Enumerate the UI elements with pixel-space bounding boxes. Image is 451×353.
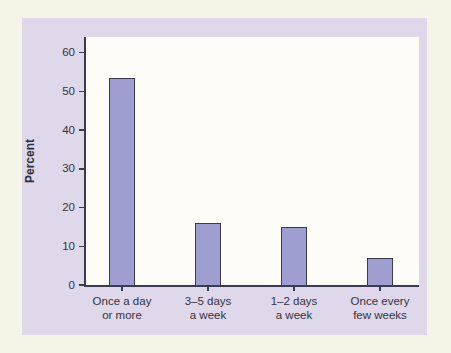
x-category-label-1-line-1: a week xyxy=(160,308,256,322)
x-category-label-1-line-0: 3–5 days xyxy=(160,294,256,308)
x-category-label-3-line-0: Once every xyxy=(332,294,428,308)
y-tick-label-50: 50 xyxy=(45,86,75,98)
y-tick-label-30: 30 xyxy=(45,163,75,175)
bar-0 xyxy=(109,78,135,285)
bar-1 xyxy=(195,223,221,285)
x-category-label-0-line-0: Once a day xyxy=(74,294,170,308)
x-category-label-0: Once a dayor more xyxy=(74,294,170,323)
y-tick-label-20: 20 xyxy=(45,202,75,214)
x-category-label-2-line-1: a week xyxy=(246,308,342,322)
y-tick-mark-0 xyxy=(79,284,84,286)
x-category-label-0-line-1: or more xyxy=(74,308,170,322)
y-tick-mark-20 xyxy=(79,207,84,209)
x-tick-mark-0 xyxy=(121,287,123,291)
x-category-label-3: Once everyfew weeks xyxy=(332,294,428,323)
x-category-label-1: 3–5 daysa week xyxy=(160,294,256,323)
y-tick-label-10: 10 xyxy=(45,241,75,253)
x-tick-mark-3 xyxy=(379,287,381,291)
x-category-label-2: 1–2 daysa week xyxy=(246,294,342,323)
y-tick-mark-30 xyxy=(79,168,84,170)
y-tick-mark-10 xyxy=(79,246,84,248)
y-tick-label-0: 0 xyxy=(45,280,75,292)
x-category-label-3-line-1: few weeks xyxy=(332,308,428,322)
chart-panel: Percent 0102030405060Once a dayor more3–… xyxy=(22,18,427,335)
x-tick-mark-1 xyxy=(207,287,209,291)
x-category-label-2-line-0: 1–2 days xyxy=(246,294,342,308)
y-tick-label-40: 40 xyxy=(45,125,75,137)
y-tick-mark-60 xyxy=(79,52,84,54)
y-tick-mark-50 xyxy=(79,91,84,93)
bar-3 xyxy=(367,258,393,285)
x-tick-mark-2 xyxy=(293,287,295,291)
figure: Percent 0102030405060Once a dayor more3–… xyxy=(0,0,451,353)
y-tick-mark-40 xyxy=(79,129,84,131)
plot-area: 0102030405060Once a dayor more3–5 daysa … xyxy=(84,37,419,287)
bar-2 xyxy=(281,227,307,285)
y-tick-label-60: 60 xyxy=(45,47,75,59)
